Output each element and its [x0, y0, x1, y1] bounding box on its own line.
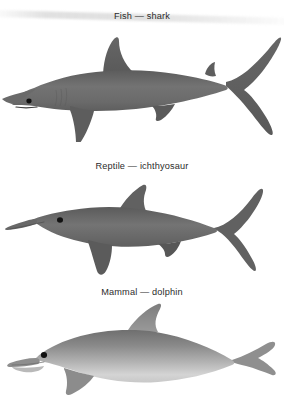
shark-eye — [26, 99, 31, 104]
figure-panel-reptile: Reptile — ichthyosaur — [0, 160, 284, 277]
dolphin-lower-jaw — [12, 366, 44, 372]
dolphin-body — [34, 330, 235, 383]
shark-pectoral-fin — [70, 106, 94, 142]
ichthyosaur-illustration — [0, 172, 284, 277]
figure-panel-mammal: Mammal — dolphin — [0, 286, 284, 396]
shark-silhouette-icon — [0, 22, 284, 142]
shark-pelvic-fin — [152, 104, 175, 121]
dolphin-silhouette-icon — [0, 298, 284, 396]
shark-illustration — [0, 22, 284, 142]
panel-caption-reptile: Reptile — ichthyosaur — [0, 160, 284, 172]
shark-mouth — [16, 107, 37, 108]
dolphin-tail-flukes — [232, 342, 276, 375]
dolphin-illustration — [0, 298, 284, 396]
ichthyosaur-silhouette-icon — [0, 172, 284, 277]
convergent-evolution-figure: Fish — shark — [0, 0, 284, 396]
ichthyosaur-eye — [57, 217, 63, 223]
shark-second-dorsal-fin — [205, 62, 216, 76]
panel-caption-shark: Fish — shark — [0, 10, 284, 22]
panel-caption-mammal: Mammal — dolphin — [0, 286, 284, 298]
ichthyosaur-body — [32, 207, 217, 247]
shark-caudal-fin — [226, 38, 281, 136]
ichthyosaur-caudal-fin — [214, 189, 263, 271]
figure-panel-shark: Fish — shark — [0, 10, 284, 142]
shark-dorsal-fin — [103, 37, 134, 75]
ichthyosaur-front-flipper — [88, 240, 112, 275]
dolphin-dorsal-fin — [128, 304, 161, 333]
dolphin-eye — [41, 352, 47, 358]
dolphin-rostrum — [7, 358, 40, 367]
shark-body — [12, 70, 228, 111]
